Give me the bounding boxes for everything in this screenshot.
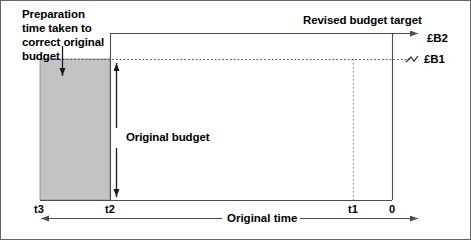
tick-label-t1: t1 xyxy=(348,203,358,216)
tick-label-zero: 0 xyxy=(389,203,395,216)
preparation-time-note: Preparation time taken to correct origin… xyxy=(22,7,104,63)
original-time-label: Original time xyxy=(227,211,297,225)
b2-value-label: £B2 xyxy=(427,31,448,45)
b1-value-label: £B1 xyxy=(424,52,445,66)
budget-diagram: Preparation time taken to correct origin… xyxy=(0,0,471,240)
original-budget-label: Original budget xyxy=(126,130,209,144)
tick-label-t3: t3 xyxy=(34,203,44,216)
b1-leader-squiggle xyxy=(406,56,418,62)
revised-budget-target-label: Revised budget target xyxy=(303,13,422,27)
tick-label-t2: t2 xyxy=(105,203,115,216)
preparation-time-region xyxy=(40,59,110,200)
